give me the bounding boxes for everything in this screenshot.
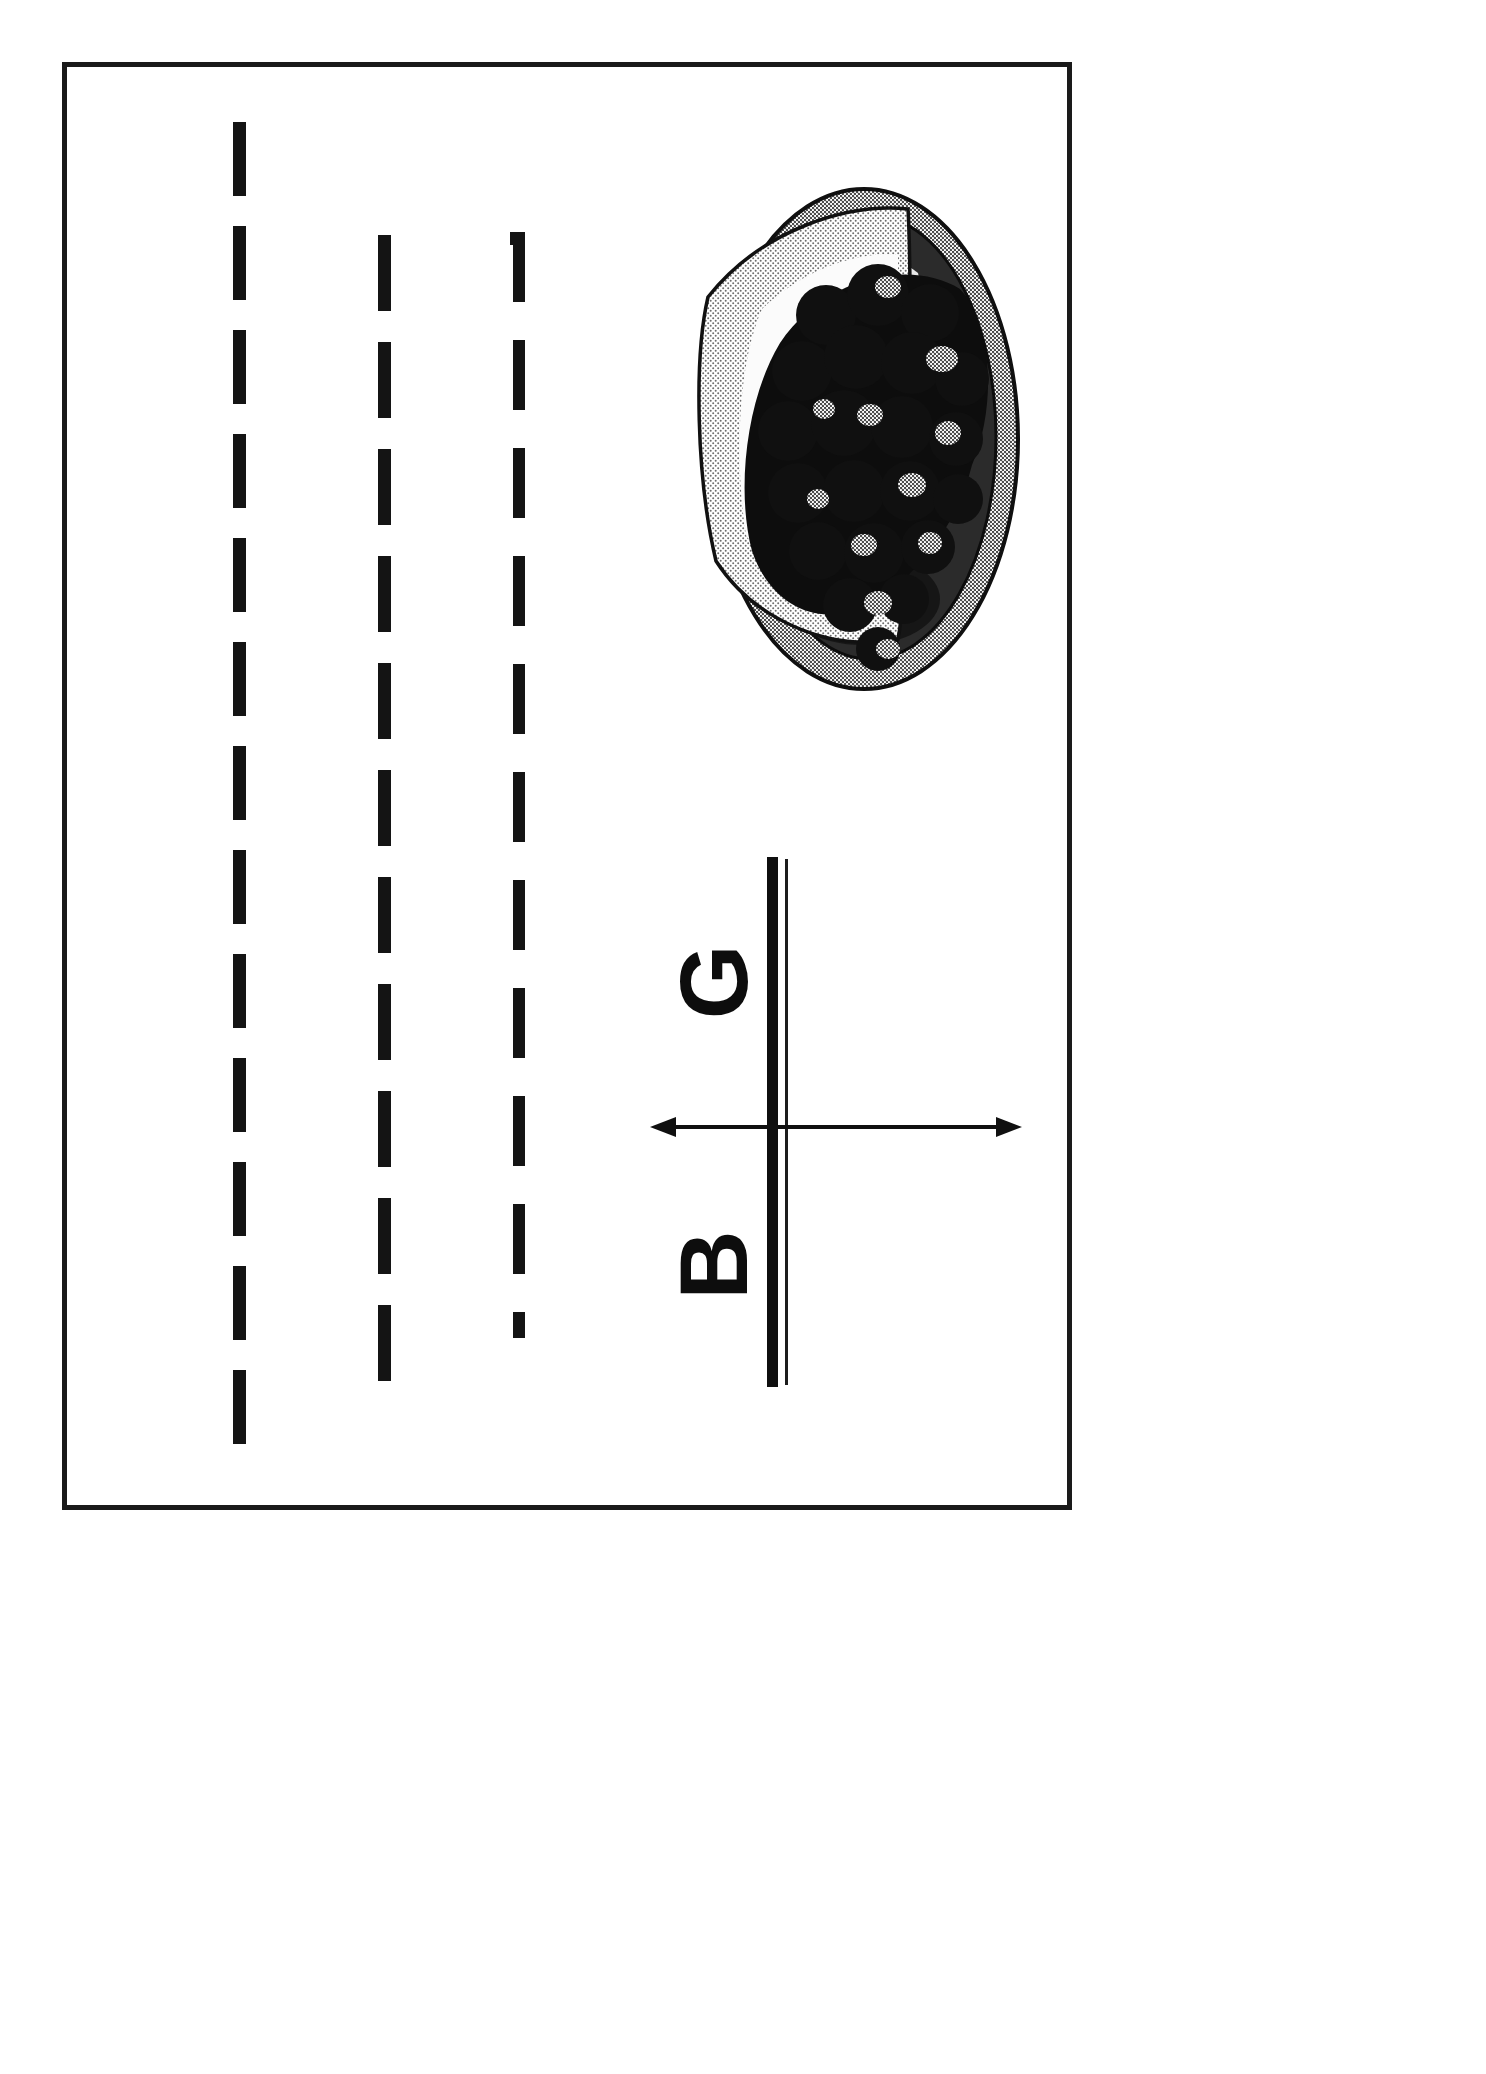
page-border: G B: [62, 62, 1072, 1510]
axis-label-g: G: [666, 937, 766, 1027]
arrow-right-head-icon: [996, 1117, 1022, 1137]
page-canvas: G B: [67, 67, 1067, 1505]
axis-label-b: B: [666, 1220, 766, 1310]
grapes-on-plate-illustration: [612, 147, 1032, 707]
double-headed-arrow: [650, 1116, 1022, 1138]
arrow-left-head-icon: [650, 1117, 676, 1137]
